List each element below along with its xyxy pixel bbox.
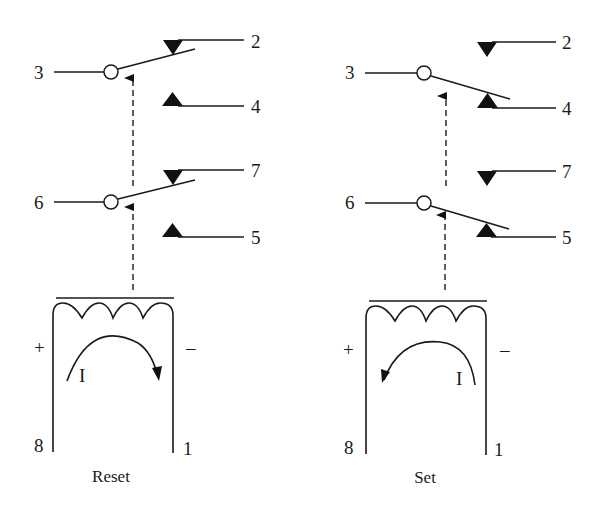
- pivot-icon: [104, 65, 118, 79]
- panel-caption: Reset: [92, 467, 130, 486]
- pin-1-label: 1: [494, 439, 504, 460]
- upper-switch: 3 2 4: [345, 32, 572, 119]
- polarity-minus: –: [499, 339, 510, 360]
- pivot-icon: [417, 196, 431, 210]
- switch-arm: [431, 76, 510, 99]
- pin-7-label: 7: [251, 160, 261, 181]
- pin-2-label: 2: [251, 31, 261, 52]
- contact-5-triangle-icon: [162, 223, 183, 237]
- pivot-icon: [104, 195, 118, 209]
- panel-caption: Set: [414, 468, 436, 487]
- pin-8-label: 8: [344, 437, 354, 458]
- pin-3-label: 3: [345, 62, 355, 83]
- pin-6-label: 6: [345, 192, 355, 213]
- coil: + – I 8 1: [343, 301, 510, 460]
- coil: + – I 8 1: [34, 298, 196, 459]
- current-label: I: [79, 365, 85, 386]
- polarity-minus: –: [185, 337, 196, 358]
- switch-arm: [118, 180, 195, 199]
- pin-1-label: 1: [183, 438, 193, 459]
- coil-winding-icon: [53, 303, 173, 453]
- pin-5-label: 5: [251, 227, 261, 248]
- contact-7-triangle-icon: [163, 170, 183, 185]
- upper-switch: 3 2 4: [34, 31, 261, 117]
- pin-2-label: 2: [562, 32, 572, 53]
- current-arrowhead-icon: [152, 366, 162, 381]
- pin-4-label: 4: [562, 98, 572, 119]
- contact-7-triangle-icon: [477, 171, 497, 186]
- pin-5-label: 5: [562, 227, 572, 248]
- switch-arm: [118, 49, 195, 69]
- current-label: I: [456, 368, 462, 389]
- reset-panel: 3 2 4 6 7 5: [34, 31, 261, 486]
- polarity-plus: +: [343, 339, 354, 360]
- pin-8-label: 8: [34, 435, 44, 456]
- set-panel: 3 2 4 6 7 5 + –: [343, 32, 572, 487]
- pin-7-label: 7: [562, 161, 572, 182]
- pin-6-label: 6: [34, 192, 44, 213]
- lower-switch: 6 7 5: [34, 160, 261, 248]
- switch-arm: [431, 206, 509, 229]
- contact-4-triangle-icon: [162, 92, 183, 106]
- pin-4-label: 4: [251, 96, 261, 117]
- pin-3-label: 3: [34, 62, 44, 83]
- contact-2-triangle-icon: [477, 42, 497, 57]
- coil-winding-icon: [366, 306, 486, 455]
- polarity-plus: +: [34, 337, 45, 358]
- relay-diagram: 3 2 4 6 7 5: [0, 0, 600, 511]
- lower-switch: 6 7 5: [345, 161, 572, 248]
- pivot-icon: [417, 66, 431, 80]
